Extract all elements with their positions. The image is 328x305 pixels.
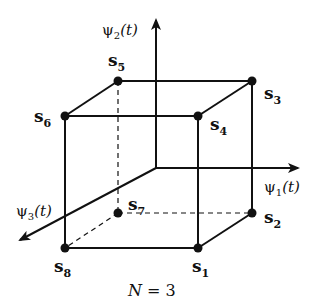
label-s5: s5 — [108, 50, 125, 74]
point-s8 — [61, 244, 70, 253]
point-labels: s5 s3 s6 s4 s7 s2 s8 s1 — [34, 50, 281, 280]
edge-s3-s4 — [198, 81, 252, 116]
label-s1: s1 — [192, 256, 209, 280]
point-s4 — [194, 112, 203, 121]
cube-constellation-diagram: s5 s3 s6 s4 s7 s2 s8 s1 ψ2(t) ψ1(t) ψ3(t… — [0, 0, 328, 305]
label-s4: s4 — [210, 114, 228, 138]
axes — [20, 20, 298, 240]
label-s2: s2 — [264, 207, 281, 231]
point-s2 — [248, 209, 257, 218]
point-s1 — [194, 244, 203, 253]
edge-s7-s8 — [65, 213, 118, 248]
label-psi1: ψ1(t) — [264, 178, 300, 198]
point-s6 — [61, 112, 70, 121]
label-s3: s3 — [264, 83, 281, 107]
label-psi2: ψ2(t) — [102, 21, 138, 41]
point-s3 — [248, 77, 257, 86]
hidden-edges — [65, 81, 252, 248]
visible-edges — [65, 81, 252, 248]
point-s5 — [114, 77, 123, 86]
edge-s5-s6 — [65, 81, 118, 116]
edge-s2-s1 — [198, 213, 252, 248]
caption: N = 3 — [127, 281, 176, 300]
label-s6: s6 — [34, 106, 52, 130]
label-s7: s7 — [128, 194, 145, 218]
label-s8: s8 — [54, 256, 72, 280]
vertices — [61, 77, 257, 253]
axis-labels: ψ2(t) ψ1(t) ψ3(t) — [16, 21, 300, 222]
point-s7 — [114, 209, 123, 218]
label-psi3: ψ3(t) — [16, 202, 52, 222]
